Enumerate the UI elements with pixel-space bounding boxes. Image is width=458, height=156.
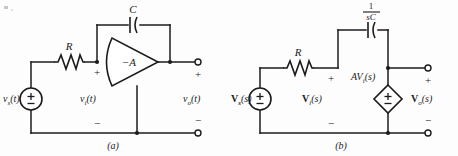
output-minus-sign-b: − [425,114,431,126]
impedance-numerator-b: 1 [369,1,374,11]
resistor-label-b: R [294,46,302,58]
output-minus-sign-a: − [195,114,201,126]
terminal-output-negative-a [195,130,201,136]
node-ground-b [386,131,390,135]
terminal-output-positive-a [195,59,201,65]
subfigure-b: R 1 sC Vs(s) [231,1,433,152]
resistor-b [283,61,314,75]
capacitor-label-a: C [129,3,137,15]
input-plus-sign-a: + [94,66,100,78]
node-output-b [386,66,390,70]
input-voltage-label-a: vi(t) [80,93,97,107]
output-voltage-label-a: vo(t) [183,93,201,107]
terminal-output-positive-b [425,65,431,71]
impedance-label-b: 1 sC [363,1,380,22]
input-voltage-label-b: Vi(s) [302,93,322,107]
source-label-a: vs(t) [3,93,20,107]
input-plus-sign-b: + [328,72,334,84]
terminal-output-negative-b [425,130,431,136]
dependent-voltage-source-b [374,85,402,113]
input-minus-sign-a: − [94,117,100,129]
node-ground-a [135,131,139,135]
subfigure-a: R C −A vs(t) [3,3,201,152]
scan-artifact-speck [4,6,8,9]
circuit-diagram-svg: R C −A vs(t) [0,0,458,156]
dependent-source-label-b: AVi(s) [350,71,376,85]
circuit-figure: R C −A vs(t) [0,0,458,156]
subfigure-caption-b: (b) [335,140,347,152]
output-plus-sign-a: + [195,68,201,80]
impedance-denominator-b: sC [366,12,377,22]
capacitor-a [130,17,137,33]
resistor-a [54,55,85,69]
subfigure-caption-a: (a) [107,140,119,152]
voltage-source-b [249,88,271,110]
impedance-capacitor-b [368,22,375,38]
scan-artifact-speck [11,9,13,11]
op-amp-gain-label-a: −A [122,56,136,68]
input-minus-sign-b: − [328,117,334,129]
node-inverting-input-a [95,60,99,64]
resistor-label-a: R [65,40,73,52]
output-voltage-label-b: Vo(s) [411,93,433,107]
voltage-source-a [20,88,42,110]
source-label-b: Vs(s) [231,93,252,107]
output-plus-sign-b: + [425,74,431,86]
node-output-a [168,60,172,64]
